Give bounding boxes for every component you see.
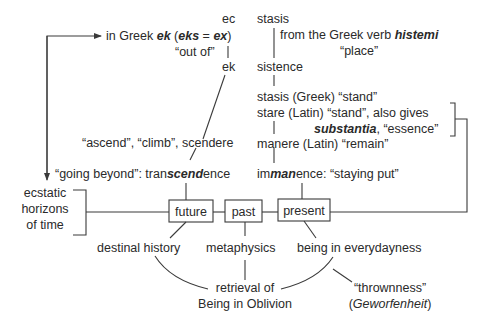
curve-everydayness-to-retrieval — [281, 257, 333, 289]
greek-verb-histemi-label: from the Greek verb histemi — [280, 28, 439, 42]
retrieval-line-1: retrieval of — [216, 281, 275, 295]
retrieval-line-2: Being in Oblivion — [198, 297, 292, 311]
future-label: future — [175, 205, 207, 219]
ascend-climb-label: “ascend”, “climb”, scendere — [82, 136, 233, 150]
manere-label: manere (Latin) “remain” — [257, 137, 388, 151]
past-label: past — [232, 205, 256, 219]
curve-destinal-to-retrieval — [155, 256, 208, 289]
transcendence-label: “going beyond”: transcendence — [55, 167, 230, 181]
present-label: present — [283, 204, 325, 218]
horizons-line-3: of time — [26, 218, 64, 232]
out-of-label: “out of” — [175, 45, 215, 59]
line-future-to-destinal — [170, 222, 186, 238]
substantia-bracket — [450, 103, 455, 136]
line-everydayness-to-thrownness — [333, 269, 352, 282]
stasis-label: stasis — [257, 12, 289, 26]
feedback-arrow-up — [47, 36, 101, 178]
geworfenheit-label: (Geworfenheit) — [349, 297, 432, 311]
stare-latin-label: stare (Latin) “stand”, also gives — [257, 106, 429, 120]
in-greek-ek-label: in Greek ek (eks = ex) — [106, 29, 231, 43]
sistence-label: sistence — [257, 60, 303, 74]
stasis-greek-stand-label: stasis (Greek) “stand” — [257, 90, 377, 104]
everydayness-label: being in everydayness — [297, 241, 421, 255]
destinal-history-label: destinal history — [97, 241, 181, 255]
thrownness-label: “thrownness” — [354, 281, 426, 295]
horizons-bracket — [73, 190, 86, 235]
horizons-line-1: ecstatic — [24, 186, 66, 200]
line-present-to-everydayness — [304, 221, 316, 238]
substantia-essence-label: substantia, “essence” — [314, 122, 438, 136]
metaphysics-label: metaphysics — [206, 241, 275, 255]
horizons-line-2: horizons — [21, 202, 68, 216]
line-ek-to-scendere — [203, 75, 225, 139]
place-label: “place” — [340, 44, 378, 58]
immanence-label: immanence: “staying put” — [257, 167, 399, 181]
ecstatic-horizons-diagram: ec in Greek ek (eks = ex) “out of” ek “a… — [0, 0, 485, 331]
ec-label: ec — [222, 12, 235, 26]
ek-label: ek — [222, 60, 236, 74]
